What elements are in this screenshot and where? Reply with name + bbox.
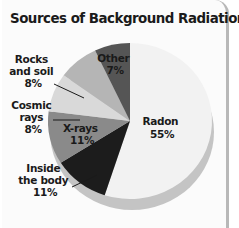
pie-chart: Other 7% Rocks and soil 8% Cosmic rays 8… xyxy=(0,0,239,228)
label-inside-the-body: Inside the body 11% xyxy=(18,162,71,198)
label-rocks-and-soil: Rocks and soil 8% xyxy=(9,53,56,89)
pie-slices xyxy=(48,43,212,199)
